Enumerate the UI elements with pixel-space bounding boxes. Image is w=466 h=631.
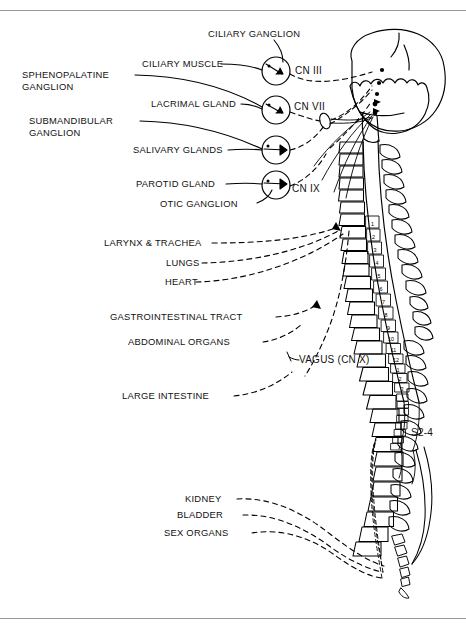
label-larynx-trachea: LARYNX & TRACHEA <box>104 237 201 249</box>
label-sex-organs: SEX ORGANS <box>164 527 229 539</box>
svg-text:4: 4 <box>376 260 379 266</box>
vagus-nerve-paths <box>196 222 349 396</box>
svg-text:7: 7 <box>382 299 385 305</box>
dashed-nerve-paths <box>290 72 372 186</box>
lower-vertebral-bodies <box>353 409 403 556</box>
figure-caption <box>6 621 460 631</box>
label-salivary-glands: SALIVARY GLANDS <box>133 144 223 156</box>
ganglion-circles <box>262 57 290 199</box>
svg-text:9: 9 <box>387 325 390 331</box>
svg-text:3: 3 <box>401 386 404 392</box>
sacral-cord-dashed <box>371 440 383 578</box>
label-ciliary-muscle: CILIARY MUSCLE <box>142 58 223 70</box>
vertebral-bodies <box>339 142 397 409</box>
svg-text:10: 10 <box>388 336 394 342</box>
spinal-segment-boxes <box>366 216 409 392</box>
label-bladder: BLADDER <box>177 509 223 521</box>
svg-text:12: 12 <box>393 357 399 363</box>
cranial-outflow-fan <box>314 112 373 198</box>
svg-text:6: 6 <box>380 286 383 292</box>
label-gastrointestinal-tract: GASTROINTESTINAL TRACT <box>110 311 243 323</box>
svg-text:1: 1 <box>371 221 374 227</box>
sacral-outflow-paths <box>237 499 384 578</box>
svg-text:11: 11 <box>391 347 397 353</box>
label-ciliary-ganglion: CILIARY GANGLION <box>208 28 300 40</box>
label-large-intestine: LARGE INTESTINE <box>122 390 209 402</box>
svg-text:1: 1 <box>397 367 400 373</box>
label-lacrimal-gland: LACRIMAL GLAND <box>151 98 236 110</box>
label-submandibular-ganglion: SUBMANDIBULAR GANGLION <box>29 115 147 138</box>
label-cn7: CN VII <box>294 101 325 113</box>
svg-text:2: 2 <box>372 234 375 240</box>
label-vagus: VAGUS (CN X) <box>299 354 370 366</box>
svg-text:2: 2 <box>399 376 402 382</box>
figure-page: 1 2 3 4 5 6 7 8 9 10 11 12 1 2 3 CILIARY… <box>0 0 466 631</box>
label-abdominal-organs: ABDOMINAL ORGANS <box>128 336 230 348</box>
label-parotid-gland: PAROTID GLAND <box>136 178 215 190</box>
label-lungs: LUNGS <box>166 257 200 269</box>
label-kidney: KIDNEY <box>185 493 221 505</box>
label-cn9: CN IX <box>292 183 320 195</box>
label-sphenopalatine-ganglion: SPHENOPALATINE GANGLION <box>22 69 142 92</box>
label-s2-4: S2-4 <box>411 427 433 439</box>
label-cn3: CN III <box>295 65 322 77</box>
brainstem-nuclei <box>373 68 385 116</box>
svg-text:8: 8 <box>385 312 388 318</box>
svg-text:5: 5 <box>378 273 381 279</box>
spinal-cord-canal <box>363 140 419 402</box>
label-heart: HEART <box>165 276 198 288</box>
coccyx <box>392 534 410 598</box>
svg-text:3: 3 <box>374 247 377 253</box>
label-otic-ganglion: OTIC GANGLION <box>160 198 238 210</box>
